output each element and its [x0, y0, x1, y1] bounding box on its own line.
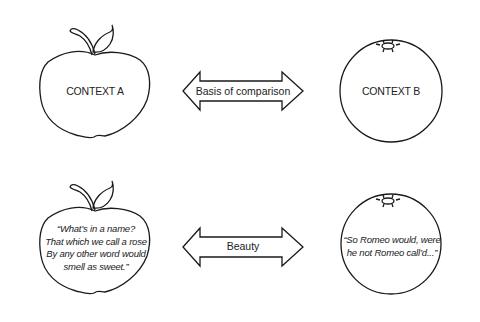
quote-line: he not Romeo call’d...”: [343, 247, 441, 260]
basis-of-comparison-label: Basis of comparison: [195, 85, 291, 97]
apple-icon: [40, 25, 150, 138]
quote-line: smell as sweet.”: [40, 261, 152, 274]
romeo-quote: “So Romeo would, were he not Romeo call’…: [343, 234, 441, 259]
diagram-shapes: [0, 0, 480, 322]
beauty-label: Beauty: [205, 240, 281, 252]
quote-line: That which we call a rose: [40, 236, 152, 249]
quote-line: “What’s in a name?: [40, 223, 152, 236]
context-b-label: CONTEXT B: [350, 85, 432, 97]
juliet-quote: “What’s in a name? That which we call a …: [40, 223, 152, 273]
quote-line: “So Romeo would, were: [343, 234, 441, 247]
quote-line: By any other word would: [40, 248, 152, 261]
context-a-label: CONTEXT A: [55, 85, 135, 97]
